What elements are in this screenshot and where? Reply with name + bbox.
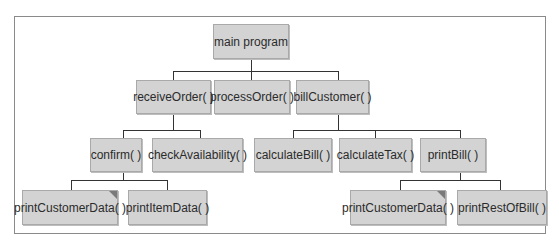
node-print-customer-data-1: printCustomerData( )	[22, 190, 118, 225]
node-calculate-bill: calculateBill( )	[254, 138, 332, 172]
connector	[123, 130, 201, 131]
node-bill-customer: billCustomer( )	[296, 80, 369, 114]
connector	[293, 130, 461, 131]
node-confirm: confirm( )	[90, 138, 142, 172]
connector	[173, 113, 174, 130]
connector	[173, 71, 339, 72]
node-check-availability: checkAvailability( )	[152, 138, 243, 172]
connector	[200, 130, 201, 138]
node-print-bill: printBill( )	[420, 138, 486, 172]
connector	[460, 172, 461, 180]
node-print-item-data: printItemData( )	[128, 190, 207, 225]
connector	[375, 130, 376, 138]
node-calculate-tax: calculateTax( )	[339, 138, 412, 172]
connector	[251, 71, 252, 80]
connector	[338, 113, 339, 130]
connector	[460, 130, 461, 138]
connector	[400, 180, 401, 190]
connector	[400, 180, 501, 181]
node-process-order: processOrder( )	[214, 80, 290, 114]
node-main-program: main program	[213, 24, 289, 59]
connector	[338, 71, 339, 80]
node-print-customer-data-2: printCustomerData( )	[350, 190, 446, 225]
connector	[71, 180, 168, 181]
node-receive-order: receiveOrder( )	[136, 80, 211, 114]
connector	[173, 71, 174, 80]
connector	[123, 172, 124, 180]
connector	[71, 180, 72, 190]
connector	[251, 58, 252, 71]
connector	[293, 130, 294, 138]
node-print-rest-of-bill: printRestOfBill( )	[457, 190, 547, 225]
connector	[123, 130, 124, 138]
connector	[500, 180, 501, 190]
connector	[167, 180, 168, 190]
